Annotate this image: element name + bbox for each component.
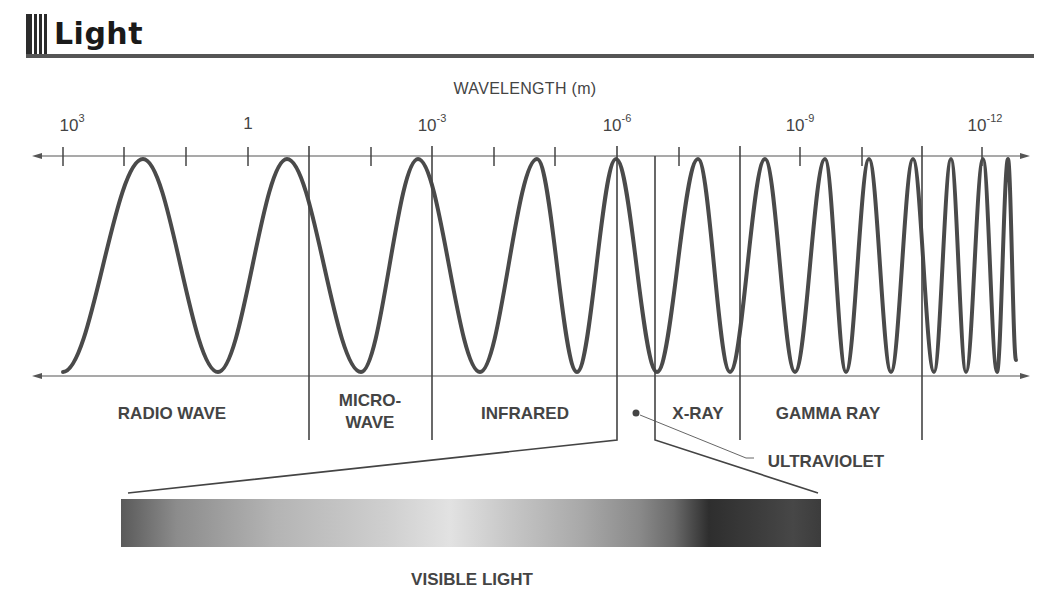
visible-light-spectrum-bar [121, 499, 821, 547]
band-label-xray: X-RAY [672, 403, 723, 425]
band-label-microwave: MICRO-WAVE [339, 390, 401, 434]
band-label-radio: RADIO WAVE [118, 403, 226, 425]
top-axis [32, 153, 1030, 159]
em-wave [63, 159, 1016, 372]
band-label-gamma: GAMMA RAY [776, 403, 881, 425]
band-label-infrared: INFRARED [481, 403, 569, 425]
visible-light-label: VISIBLE LIGHT [0, 570, 944, 590]
bottom-axis [32, 373, 1030, 379]
ultraviolet-label: ULTRAVIOLET [768, 451, 884, 473]
